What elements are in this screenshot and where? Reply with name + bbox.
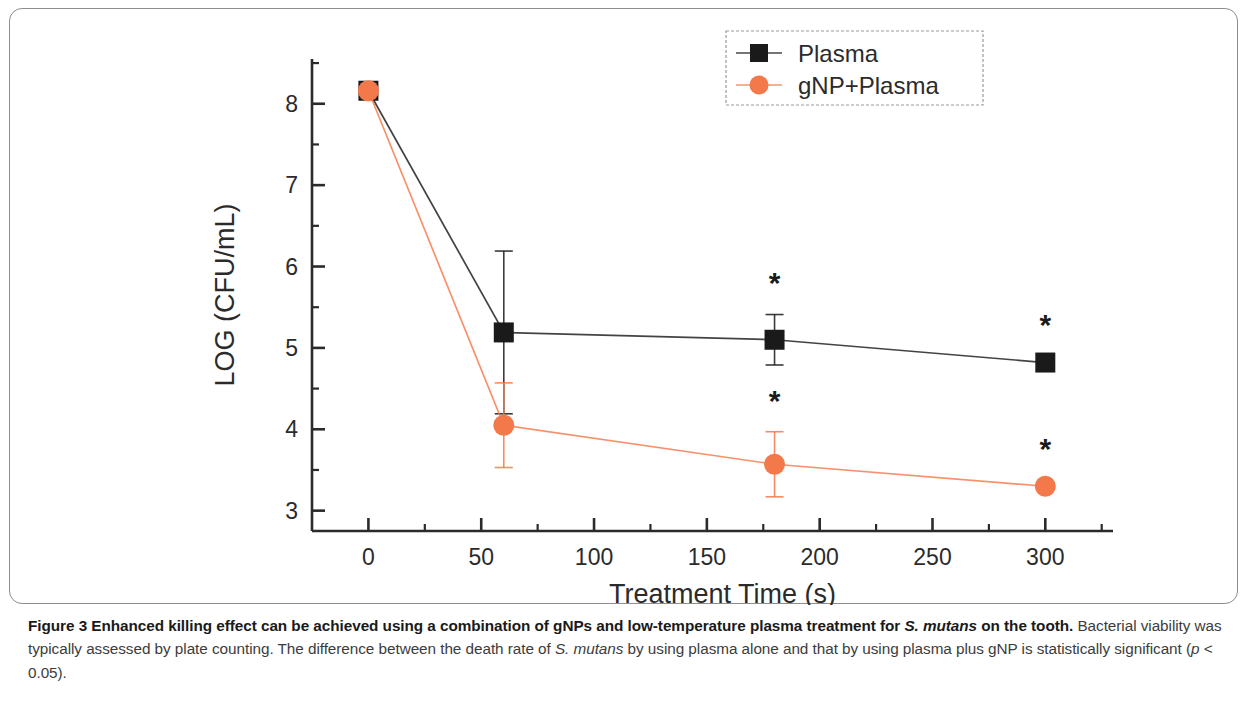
- legend-marker-circle: [750, 76, 769, 95]
- significance-asterisk: *: [1039, 308, 1051, 341]
- x-tick-label: 150: [688, 544, 726, 570]
- significance-markers: ****: [769, 266, 1052, 464]
- x-tick-label: 50: [468, 544, 494, 570]
- data-point-marker[interactable]: [764, 454, 785, 475]
- chart-legend: PlasmagNP+Plasma: [726, 31, 983, 105]
- caption-body-2: by using plasma alone and that by using …: [623, 640, 1191, 657]
- y-tick-label: 8: [285, 91, 298, 117]
- series-line: [368, 91, 1045, 363]
- data-point-marker[interactable]: [1035, 353, 1055, 373]
- y-tick-label: 3: [285, 498, 298, 524]
- data-point-marker[interactable]: [358, 80, 379, 101]
- y-tick-label: 4: [285, 416, 298, 442]
- significance-asterisk: *: [769, 266, 781, 299]
- series-2: [358, 80, 1056, 497]
- legend-label: Plasma: [798, 40, 879, 67]
- legend-label: gNP+Plasma: [798, 72, 939, 99]
- significance-asterisk: *: [769, 384, 781, 417]
- figure-panel: 345678050100150200250300Treatment Time (…: [9, 8, 1238, 604]
- x-tick-label: 200: [800, 544, 838, 570]
- axes: [312, 59, 1113, 531]
- data-point-marker[interactable]: [494, 322, 514, 342]
- y-tick-label: 6: [285, 254, 298, 280]
- data-point-marker[interactable]: [1035, 476, 1056, 497]
- y-tick-label: 7: [285, 172, 298, 198]
- x-axis-title: Treatment Time (s): [609, 579, 836, 605]
- caption-bold-lead-1: Figure 3 Enhanced killing effect can be …: [28, 617, 904, 634]
- x-tick-label: 250: [913, 544, 951, 570]
- legend-marker-square: [750, 44, 768, 62]
- y-tick-label: 5: [285, 335, 298, 361]
- y-ticks: 345678: [285, 63, 325, 524]
- caption-bold-lead-2: on the tooth.: [977, 617, 1073, 634]
- data-point-marker[interactable]: [765, 330, 785, 350]
- series-1: [358, 81, 1055, 414]
- figure-caption: Figure 3 Enhanced killing effect can be …: [28, 614, 1228, 684]
- caption-species-bold: S. mutans: [904, 617, 977, 634]
- x-tick-label: 300: [1026, 544, 1064, 570]
- y-axis-title: LOG (CFU/mL): [210, 203, 240, 386]
- caption-species-italic: S. mutans: [555, 640, 623, 657]
- series-line: [368, 91, 1045, 487]
- significance-asterisk: *: [1039, 432, 1051, 465]
- figure-page: 345678050100150200250300Treatment Time (…: [0, 0, 1249, 711]
- data-point-marker[interactable]: [493, 415, 514, 436]
- x-ticks: 050100150200250300: [362, 518, 1102, 570]
- x-tick-label: 100: [575, 544, 613, 570]
- line-chart: 345678050100150200250300Treatment Time (…: [10, 9, 1239, 605]
- x-tick-label: 0: [362, 544, 375, 570]
- chart-container: 345678050100150200250300Treatment Time (…: [10, 9, 1239, 605]
